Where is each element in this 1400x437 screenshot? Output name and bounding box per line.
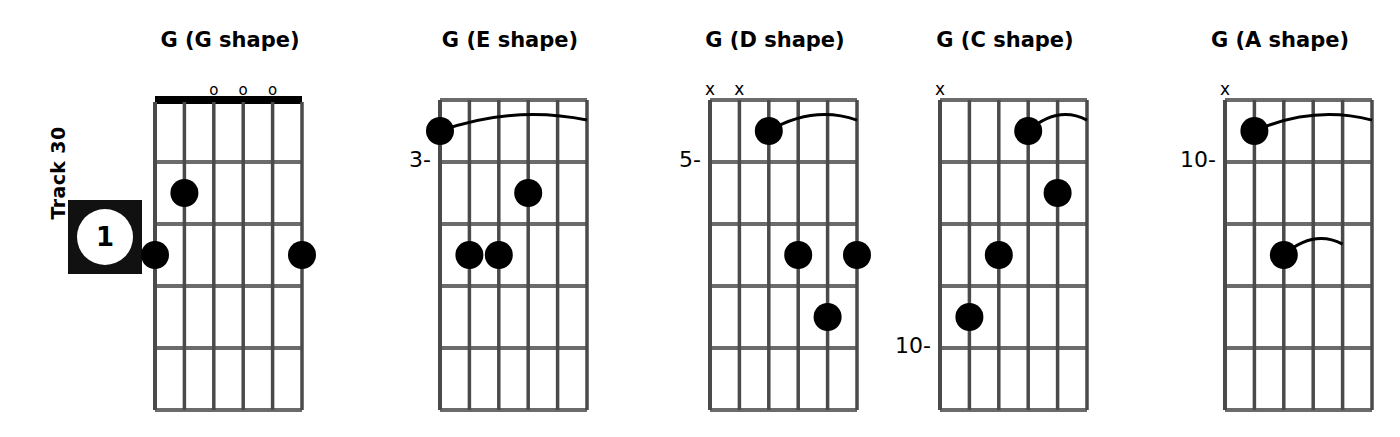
barre-curve [440, 115, 587, 131]
finger-dot [755, 117, 783, 145]
finger-dot [141, 241, 169, 269]
chord-title: G (D shape) [665, 28, 885, 52]
string-markers: x [1225, 70, 1372, 100]
chord-title: G (G shape) [140, 28, 320, 52]
finger-dot [514, 179, 542, 207]
finger-dot [426, 117, 454, 145]
chord-diagram-g-a-shape: G (A shape)x10- [1165, 0, 1395, 437]
string-markers: ooo [155, 70, 302, 100]
finger-dot [1044, 179, 1072, 207]
fretboard: 3- [440, 100, 587, 410]
open-string-marker: o [239, 83, 248, 98]
chord-title: G (E shape) [400, 28, 620, 52]
finger-dot [843, 241, 871, 269]
fretboard-grid [137, 97, 320, 413]
fretboard: x10- [1225, 100, 1372, 410]
finger-dot [170, 179, 198, 207]
chord-diagram-g-d-shape: G (D shape)xx5- [665, 0, 885, 437]
finger-dot [1270, 241, 1298, 269]
chord-diagram-g-e-shape: G (E shape)3- [400, 0, 620, 437]
muted-string-marker: x [734, 81, 744, 98]
fretboard: ooo [155, 100, 302, 410]
finger-dot [485, 241, 513, 269]
finger-dot [288, 241, 316, 269]
muted-string-marker: x [935, 81, 945, 98]
fretboard: xx5- [710, 100, 857, 410]
track-badge: 1 [68, 200, 142, 274]
muted-string-marker: x [1220, 81, 1230, 98]
string-markers: xx [710, 70, 857, 100]
string-markers: x [940, 70, 1087, 100]
fretboard-grid [692, 97, 875, 413]
finger-dot [784, 241, 812, 269]
finger-dot [955, 303, 983, 331]
muted-string-marker: x [705, 81, 715, 98]
finger-dot [985, 241, 1013, 269]
chord-title: G (A shape) [1165, 28, 1395, 52]
finger-dot [1240, 117, 1268, 145]
chord-title: G (C shape) [895, 28, 1115, 52]
track-label: Track 30 [47, 113, 69, 233]
finger-dot [1014, 117, 1042, 145]
finger-dot [455, 241, 483, 269]
open-string-marker: o [268, 83, 277, 98]
chord-diagram-g-g-shape: G (G shape)ooo [140, 0, 320, 437]
track-block: Track 30 1 [30, 100, 140, 300]
fretboard: x10- [940, 100, 1087, 410]
track-badge-number: 1 [77, 209, 133, 265]
finger-dot [814, 303, 842, 331]
fretboard-grid [422, 97, 605, 413]
fretboard-grid [922, 97, 1105, 413]
chord-chart-page: Track 30 1 G (G shape)oooG (E shape)3-G … [0, 0, 1400, 437]
chord-diagram-g-c-shape: G (C shape)x10- [895, 0, 1115, 437]
open-string-marker: o [209, 83, 218, 98]
fretboard-grid [1207, 97, 1390, 413]
